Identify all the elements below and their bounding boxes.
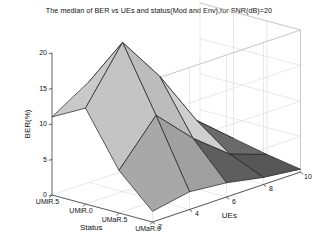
status-tick-label: UMiR.5 xyxy=(36,198,59,205)
figure-3d-surface-chart: The median of BER vs UEs and status(Mod … xyxy=(0,0,318,240)
y-axis-title: BER(%) xyxy=(23,109,32,138)
ues-tick-label: 8 xyxy=(269,185,273,192)
surface-plot-canvas: 05101520UMiR.5UMiR.0UMaR.5UMaR.0246810 B… xyxy=(0,0,318,240)
status-tick-label: UMiR.0 xyxy=(69,207,92,214)
ues-tick-label: 4 xyxy=(195,210,199,217)
ues-tick-label: 6 xyxy=(232,198,236,205)
z-axis-title: UEs xyxy=(222,211,237,220)
y-tick-label: 5 xyxy=(43,156,47,163)
y-tick-label: 15 xyxy=(39,85,47,92)
ues-tick-label: 2 xyxy=(158,223,162,230)
status-tick-label: UMaR.5 xyxy=(102,216,128,223)
y-tick-label: 20 xyxy=(39,49,47,56)
x-axis-title: Status xyxy=(80,223,103,232)
ues-tick-label: 10 xyxy=(304,173,312,180)
y-tick-label: 10 xyxy=(39,120,47,127)
